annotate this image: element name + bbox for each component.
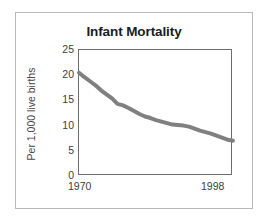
x-axis-tick-label-start: 1970: [68, 180, 91, 192]
chart-figure: Infant Mortality Per 1,000 live births 2…: [0, 0, 271, 223]
y-axis-tick-label: 15: [56, 93, 74, 105]
y-axis-tick-label: 25: [56, 43, 74, 55]
y-axis-tick-labels: 2520151050: [54, 49, 74, 175]
plot-area: [78, 49, 232, 175]
y-axis-tick-label: 10: [56, 119, 74, 131]
y-axis-label: Per 1,000 live births: [25, 54, 37, 174]
chart-title: Infant Mortality: [15, 24, 253, 39]
data-series-line: [79, 50, 233, 176]
y-axis-tick-label: 5: [56, 144, 74, 156]
y-axis-tick-label: 20: [56, 68, 74, 80]
x-axis-tick-label-end: 1998: [201, 180, 224, 192]
